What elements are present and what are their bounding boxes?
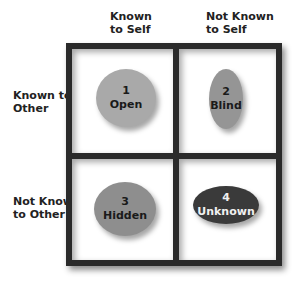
quadrant-name: Blind <box>210 99 242 113</box>
quadrant-name: Open <box>110 98 143 112</box>
quadrant-unknown-cell: 4 Unknown <box>179 159 276 260</box>
column-header-line: to Self <box>206 23 274 36</box>
quadrant-name: Hidden <box>103 209 147 223</box>
quadrant-number: 2 <box>222 85 230 99</box>
quadrant-open-cell: 1 Open <box>72 49 173 153</box>
quadrant-name: Unknown <box>197 205 254 219</box>
quadrant-unknown-oval: 4 Unknown <box>193 186 259 224</box>
row-header-known-to-other: Known to Other <box>13 89 72 115</box>
quadrant-number: 1 <box>122 84 130 98</box>
quadrant-number: 3 <box>121 195 129 209</box>
column-header-line: to Self <box>110 23 152 36</box>
quadrant-blind-cell: 2 Blind <box>179 49 276 153</box>
quadrant-open-oval: 1 Open <box>96 69 156 127</box>
johari-window-frame: 1 Open 2 Blind 3 Hidden 4 Unknown <box>66 43 282 266</box>
row-header-line: Known to <box>13 89 72 102</box>
column-header-not-known-to-self: Not Known to Self <box>206 10 274 36</box>
quadrant-blind-oval: 2 Blind <box>209 69 243 129</box>
quadrant-hidden-oval: 3 Hidden <box>94 182 156 236</box>
column-header-known-to-self: Known to Self <box>110 10 152 36</box>
quadrant-hidden-cell: 3 Hidden <box>72 159 173 260</box>
quadrant-number: 4 <box>222 191 230 205</box>
column-header-line: Known <box>110 10 152 23</box>
column-header-line: Not Known <box>206 10 274 23</box>
row-header-line: Other <box>13 102 72 115</box>
